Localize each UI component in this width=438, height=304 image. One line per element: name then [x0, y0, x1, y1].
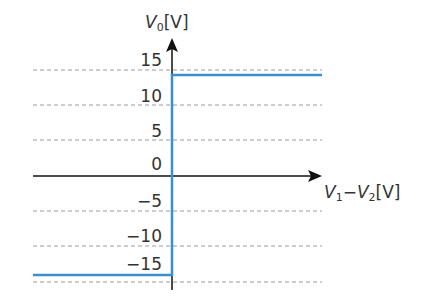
x-axis-sub2: 2 — [369, 191, 376, 204]
tick-10: 10 — [140, 86, 162, 106]
x-axis-sub1: 1 — [336, 191, 343, 204]
tick-minus-10: −10 — [126, 226, 162, 246]
tick-minus-15: −15 — [126, 254, 162, 274]
tick-15: 15 — [140, 50, 162, 70]
y-axis-sub: 0 — [157, 21, 164, 34]
x-axis-unit: [V] — [376, 182, 401, 202]
x-axis-minus: − — [343, 182, 357, 202]
tick-minus-5: −5 — [137, 191, 162, 211]
y-tick-labels: 15 10 5 0 −5 −10 −15 — [126, 50, 162, 274]
chart: 15 10 5 0 −5 −10 −15 V0[V] V1−V2[V] — [0, 0, 438, 304]
tick-0: 0 — [151, 154, 162, 174]
tick-5: 5 — [151, 121, 162, 141]
x-axis-label: V1−V2[V] — [324, 182, 400, 204]
y-axis-unit: [V] — [164, 12, 189, 32]
y-axis-label: V0[V] — [145, 12, 189, 34]
